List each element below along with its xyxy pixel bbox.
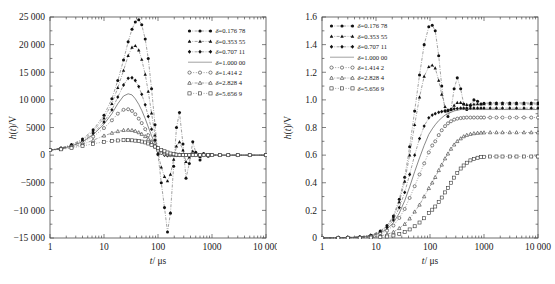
legend-item-label: δ=0.353 55 (358, 33, 389, 40)
y-tick-label: 1.6 (305, 12, 317, 22)
y-tick-label: 0.8 (305, 123, 317, 133)
y-tick-label: 1.0 (305, 95, 317, 105)
x-tick-label: 10 (99, 242, 109, 252)
y-tick-label: 1.2 (305, 68, 317, 78)
chart-panel-left: 110100100010 000−15 000−10 000−500005000… (0, 0, 277, 284)
legend-item-label: δ=0.176 78 (358, 22, 389, 29)
y-tick-label: 25 000 (19, 12, 45, 22)
x-axis-title: t/ μs (150, 256, 167, 266)
legend-item-label: δ=5.656 9 (358, 85, 385, 92)
y-tick-label: 0.2 (305, 206, 317, 216)
legend-item-label: δ=5.656 9 (216, 90, 243, 97)
y-tick-label: 5000 (26, 123, 45, 133)
chart-legend: δ=0.176 78δ=0.353 55δ=0.707 11δ=1.000 00… (330, 22, 388, 91)
y-tick-label: 10 000 (19, 95, 45, 105)
left-chart-svg: 110100100010 000−15 000−10 000−500005000… (0, 0, 277, 284)
data-series (320, 106, 539, 240)
legend-item-label: δ=1.414 2 (216, 69, 243, 76)
legend-item-label: δ=2.828 4 (216, 79, 243, 86)
figure-container: 110100100010 000−15 000−10 000−500005000… (0, 0, 555, 284)
legend-item-label: δ=1.000 00 (358, 54, 389, 61)
x-tick-label: 100 (151, 242, 166, 252)
y-tick-label: 0 (40, 150, 45, 160)
data-series (320, 155, 539, 240)
y-tick-label: 15 000 (19, 68, 45, 78)
y-axis-title: h(t)/V (8, 116, 19, 139)
x-tick-label: 10 000 (525, 242, 551, 252)
data-series (320, 131, 539, 240)
legend-item-label: δ=1.000 00 (216, 59, 247, 66)
data-series (320, 116, 539, 239)
y-tick-label: 0 (312, 233, 317, 243)
x-tick-label: 1000 (203, 242, 222, 252)
y-tick-label: 20 000 (19, 40, 45, 50)
legend-item-label: δ=1.414 2 (358, 64, 385, 71)
chart-legend: δ=0.176 78δ=0.353 55δ=0.707 11δ=1.000 00… (188, 27, 246, 96)
x-tick-label: 1 (48, 242, 53, 252)
y-tick-label: 1.4 (305, 40, 317, 50)
y-tick-label: 0.4 (305, 178, 317, 188)
y-axis-title: h(t)/V (283, 116, 294, 139)
legend-item-label: δ=0.176 78 (216, 27, 247, 34)
data-series (320, 24, 539, 240)
y-tick-label: −5000 (21, 178, 46, 188)
data-series (322, 110, 538, 238)
x-tick-label: 10 (371, 242, 381, 252)
x-tick-label: 1000 (475, 242, 494, 252)
legend-item-label: δ=0.707 11 (216, 48, 246, 55)
y-tick-label: −10 000 (14, 206, 46, 216)
right-chart-svg: 110100100010 00000.20.40.60.81.01.21.41.… (277, 0, 555, 284)
legend-item-label: δ=0.353 55 (216, 38, 247, 45)
x-axis-title: t/ μs (422, 256, 439, 266)
x-tick-label: 100 (423, 242, 438, 252)
x-tick-label: 1 (320, 242, 325, 252)
legend-item-label: δ=0.707 11 (358, 43, 388, 50)
chart-panel-right: 110100100010 00000.20.40.60.81.01.21.41.… (277, 0, 555, 284)
y-tick-label: −15 000 (14, 233, 46, 243)
x-tick-label: 10 000 (253, 242, 277, 252)
legend-item-label: δ=2.828 4 (358, 74, 385, 81)
y-tick-label: 0.6 (305, 150, 317, 160)
